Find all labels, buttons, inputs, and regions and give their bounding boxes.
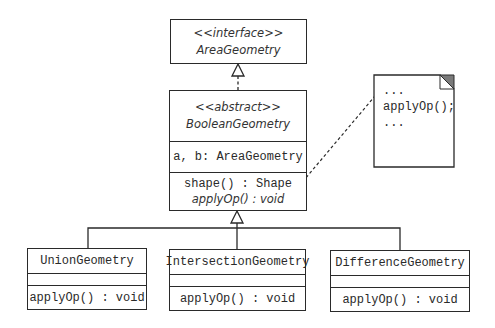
class-name: UnionGeometry (40, 253, 134, 269)
abstract-class-name: BooleanGeometry (186, 116, 290, 133)
note-text: ... applyOp(); ... (383, 83, 455, 131)
class-intersection-geometry: IntersectionGeometry applyOp() : void (169, 249, 306, 311)
method: applyOp() : void (342, 292, 457, 308)
attributes-section (331, 275, 469, 287)
method-shape: shape() : Shape (184, 176, 292, 192)
interface-name: AreaGeometry (196, 42, 280, 59)
generalization-arrow (88, 211, 400, 250)
attributes-section (170, 274, 305, 286)
abstract-stereotype: <<abstract>> (195, 99, 281, 116)
class-difference-geometry: DifferenceGeometry applyOp() : void (330, 250, 470, 312)
note-line: ... (383, 116, 405, 130)
interface-stereotype: <<interface>> (194, 25, 284, 42)
class-header: <<abstract>> BooleanGeometry (170, 91, 306, 141)
realization-arrow (232, 64, 244, 90)
method: applyOp() : void (29, 290, 144, 306)
note-line: ... (383, 84, 405, 98)
attributes-section: a, b: AreaGeometry (170, 141, 306, 172)
uml-diagram: <<interface>> AreaGeometry <<abstract>> … (0, 0, 495, 328)
attributes-section (28, 273, 146, 285)
note: ... applyOp(); ... (374, 75, 454, 167)
method: applyOp() : void (180, 291, 295, 307)
note-anchor-line (299, 96, 375, 186)
class-boolean-geometry: <<abstract>> BooleanGeometry a, b: AreaG… (169, 90, 307, 211)
interface-area-geometry: <<interface>> AreaGeometry (170, 19, 307, 64)
method-applyop-abstract: applyOp() : void (192, 192, 285, 207)
note-line: applyOp(); (383, 100, 455, 114)
attribute: a, b: AreaGeometry (173, 149, 303, 165)
methods-section: shape() : Shape applyOp() : void (170, 172, 306, 210)
class-name: DifferenceGeometry (335, 255, 465, 271)
class-union-geometry: UnionGeometry applyOp() : void (27, 248, 147, 310)
class-name: IntersectionGeometry (165, 254, 309, 270)
